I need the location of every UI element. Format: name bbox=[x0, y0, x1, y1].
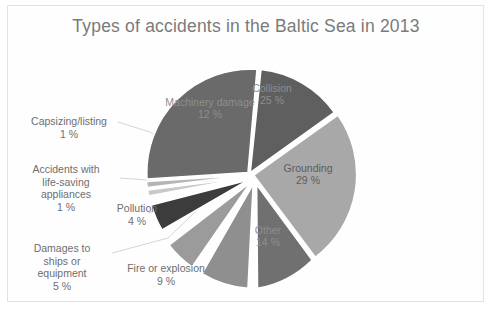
callout-fire-or-explosion: Fire or explosion 9 % bbox=[110, 262, 222, 287]
pie-svg bbox=[145, 58, 357, 290]
callout-pollution-pct: 4 % bbox=[101, 215, 173, 228]
page-title: Types of accidents in the Baltic Sea in … bbox=[0, 16, 492, 37]
callout-damages-to-ships-pct: 5 % bbox=[14, 280, 110, 293]
callout-life-saving-appliances-line3: appliances bbox=[14, 188, 118, 201]
callout-fire-or-explosion-line1: Fire or explosion bbox=[127, 262, 205, 274]
callout-capsizing-listing: Capsizing/listing 1 % bbox=[14, 115, 124, 140]
callout-pollution-line1: Pollution bbox=[117, 202, 157, 214]
pie-slice-machinery-damage[interactable] bbox=[147, 69, 257, 179]
callout-damages-to-ships: Damages to ships or equipment 5 % bbox=[14, 242, 110, 292]
chart-figure: Types of accidents in the Baltic Sea in … bbox=[0, 0, 492, 309]
pie-chart: Machinery damage 12 % Collision 25 % Gro… bbox=[145, 58, 357, 290]
callout-damages-to-ships-line3: equipment bbox=[14, 267, 110, 280]
callout-pollution: Pollution 4 % bbox=[101, 202, 173, 227]
callout-life-saving-appliances-line2: life-saving bbox=[14, 176, 118, 189]
callout-capsizing-listing-line1: Capsizing/listing bbox=[31, 115, 107, 127]
callout-damages-to-ships-line1: Damages to bbox=[34, 242, 91, 254]
callout-damages-to-ships-line2: ships or bbox=[14, 255, 110, 268]
callout-fire-or-explosion-pct: 9 % bbox=[110, 275, 222, 288]
callout-capsizing-listing-pct: 1 % bbox=[14, 128, 124, 141]
callout-life-saving-appliances-line1: Accidents with bbox=[32, 163, 99, 175]
